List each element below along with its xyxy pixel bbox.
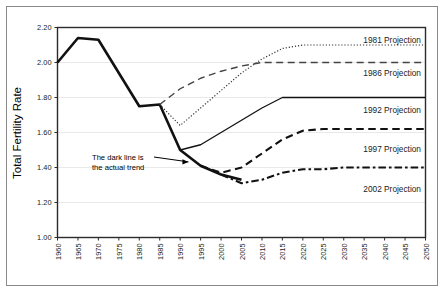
y-tick-label: 2.00 — [37, 58, 51, 67]
legend-label: 2002 Projection — [363, 184, 421, 194]
y-tick-label: 1.40 — [37, 163, 51, 172]
gridlines — [58, 63, 426, 203]
x-tick-label: 1995 — [197, 244, 206, 260]
x-tick-label: 2020 — [299, 244, 308, 260]
chart-figure: 1.001.201.401.601.802.002.20 19601965197… — [0, 0, 444, 292]
x-tick-label: 2045 — [401, 244, 410, 260]
y-tick-label: 2.20 — [37, 23, 51, 32]
legend-label: 1997 Projection — [363, 144, 421, 154]
x-tick-label: 1965 — [74, 244, 83, 260]
fertility-rate-line-chart: 1.001.201.401.601.802.002.20 19601965197… — [0, 0, 444, 292]
x-tick-label: 1960 — [54, 244, 63, 260]
y-axis-title: Total Fertility Rate — [11, 87, 23, 179]
x-tick-label: 2015 — [278, 244, 287, 260]
series-line-actual-trend — [58, 38, 242, 180]
x-tick-label: 1990 — [176, 244, 185, 260]
x-tick-label: 1970 — [94, 244, 103, 260]
x-tick-label: 1980 — [135, 244, 144, 260]
y-tick-label: 1.20 — [37, 198, 51, 207]
x-tick-label: 2040 — [381, 244, 390, 260]
series-line-2002-projection — [221, 168, 425, 184]
legend: 1981 Projection1986 Projection1992 Proje… — [363, 35, 421, 194]
x-tick-label: 2010 — [258, 244, 267, 260]
legend-label: 1981 Projection — [363, 35, 421, 45]
annotation-line-2: the actual trend — [92, 163, 144, 172]
x-tick-label: 1975 — [115, 244, 124, 260]
x-tick-label: 2030 — [340, 244, 349, 260]
annotation-line-1: The dark line is — [92, 153, 144, 162]
x-tick-label: 2050 — [422, 244, 431, 260]
y-tick-label: 1.80 — [37, 93, 51, 102]
annotations: The dark line isthe actual trend — [92, 153, 188, 172]
x-tick-label: 2035 — [360, 244, 369, 260]
legend-label: 1992 Projection — [363, 105, 421, 115]
x-axis-ticks: 1960196519701975198019851990199520002005… — [54, 238, 431, 260]
x-tick-label: 2005 — [238, 244, 247, 260]
x-tick-label: 1985 — [156, 244, 165, 260]
y-axis-ticks: 1.001.201.401.601.802.002.20 — [37, 23, 57, 242]
x-tick-label: 2000 — [217, 244, 226, 260]
y-tick-label: 1.60 — [37, 128, 51, 137]
y-tick-label: 1.00 — [37, 233, 51, 242]
legend-label: 1986 Projection — [363, 68, 421, 78]
x-tick-label: 2025 — [319, 244, 328, 260]
annotation-arrow-head — [182, 159, 188, 164]
